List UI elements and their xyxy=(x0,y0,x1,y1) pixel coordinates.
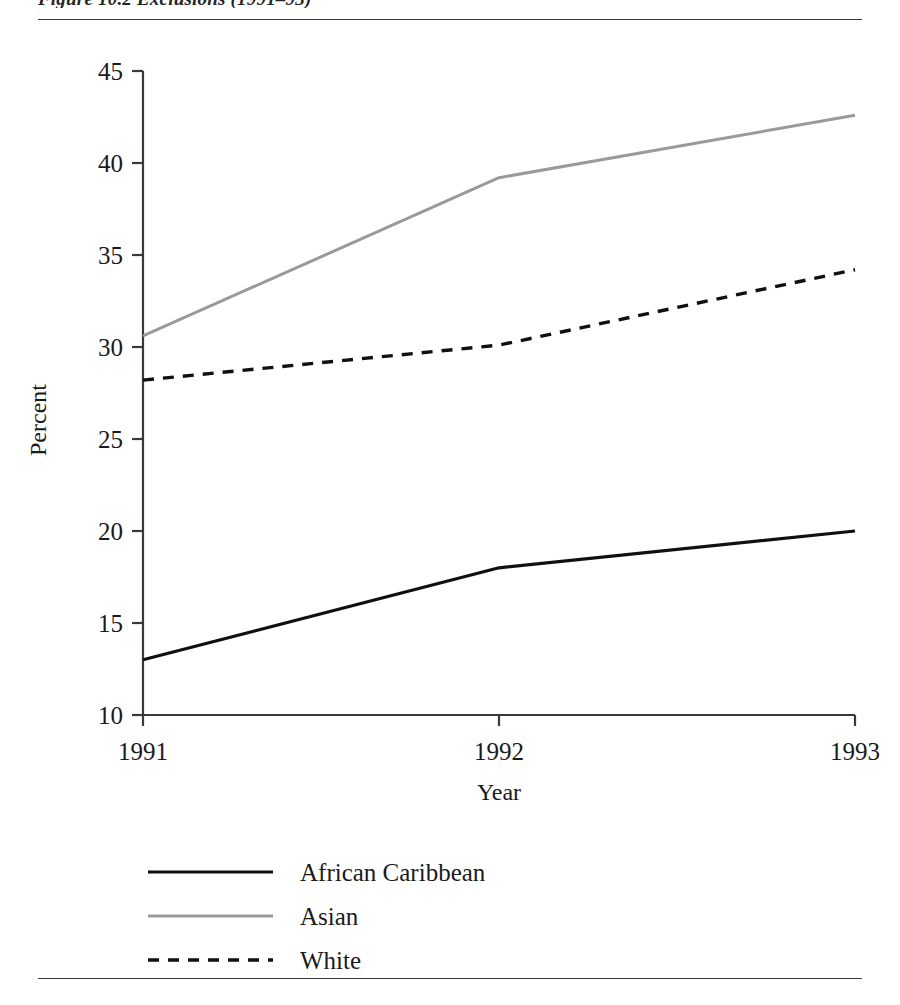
series-group xyxy=(143,115,855,660)
figure-container: Figure 10.2 Exclusions (1991–93) 1015202… xyxy=(0,0,900,1005)
x-axis-ticks: 199119921993 xyxy=(118,715,880,765)
series-line-white xyxy=(143,270,855,380)
figure-divider-rule-bottom xyxy=(38,978,862,979)
y-tick-label: 15 xyxy=(98,610,123,637)
x-axis-title: Year xyxy=(477,779,521,805)
legend-label: African Caribbean xyxy=(300,859,486,886)
y-tick-label: 10 xyxy=(98,702,123,729)
y-tick-label: 40 xyxy=(98,150,123,177)
y-tick-label: 35 xyxy=(98,242,123,269)
y-tick-label: 25 xyxy=(98,426,123,453)
x-tick-label: 1991 xyxy=(118,738,168,765)
y-axis-title: Percent xyxy=(25,384,51,456)
legend-label: Asian xyxy=(300,903,359,930)
legend-label: White xyxy=(300,947,361,974)
y-axis-ticks: 1015202530354045 xyxy=(98,58,143,729)
series-line-african-caribbean xyxy=(143,531,855,660)
y-tick-label: 30 xyxy=(98,334,123,361)
y-tick-label: 45 xyxy=(98,58,123,85)
chart-legend: African CaribbeanAsianWhite xyxy=(148,859,486,974)
x-tick-label: 1992 xyxy=(474,738,524,765)
series-line-asian xyxy=(143,115,855,336)
x-tick-label: 1993 xyxy=(830,738,880,765)
y-tick-label: 20 xyxy=(98,518,123,545)
line-chart: 1015202530354045 199119921993 Percent Ye… xyxy=(0,0,900,1005)
